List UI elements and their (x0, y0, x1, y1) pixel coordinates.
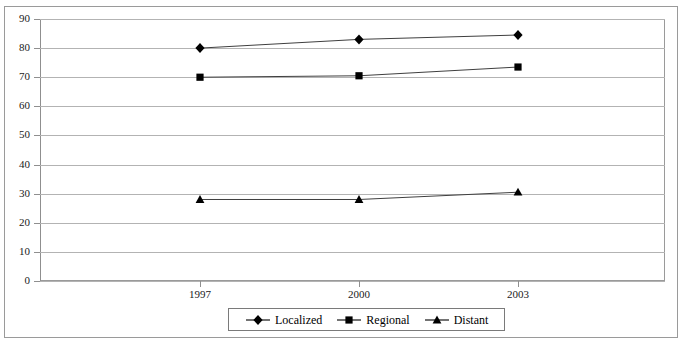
series-regional (196, 63, 521, 80)
data-point-localized-2000 (354, 34, 363, 44)
data-point-localized-1997 (195, 43, 204, 53)
data-point-localized-2003 (513, 30, 522, 40)
data-point-regional-2000 (355, 72, 362, 79)
series-distant (196, 188, 523, 203)
legend-item-regional[interactable]: Regional (336, 314, 409, 326)
chart-legend: LocalizedRegionalDistant (228, 308, 505, 331)
diamond-marker-icon (245, 314, 271, 326)
legend-label-regional: Regional (366, 314, 409, 326)
legend-item-localized[interactable]: Localized (245, 314, 322, 326)
data-point-regional-1997 (196, 74, 203, 81)
legend-label-localized: Localized (275, 314, 322, 326)
legend-item-distant[interactable]: Distant (424, 314, 489, 326)
square-marker-icon (336, 314, 362, 326)
data-point-regional-2003 (514, 63, 521, 70)
triangle-marker-icon (424, 314, 450, 326)
series-layer (0, 0, 683, 344)
series-localized (195, 30, 522, 53)
line-chart: 0102030405060708090 199720002003 Localiz… (0, 0, 683, 344)
data-point-distant-2003 (514, 188, 523, 196)
legend-label-distant: Distant (454, 314, 489, 326)
